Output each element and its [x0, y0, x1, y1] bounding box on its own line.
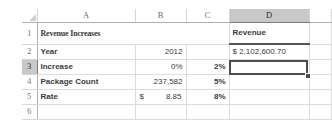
- cell-b5-rate-currency[interactable]: $ 8.85: [135, 89, 186, 104]
- cell-d6[interactable]: [229, 104, 309, 119]
- row-header-3[interactable]: 3: [22, 59, 37, 74]
- table-row: 2 Year 2012 $ 2,102,600.70: [22, 44, 331, 59]
- cell-c2[interactable]: [186, 44, 229, 59]
- cell-d1-revenue-header[interactable]: Revenue: [229, 22, 309, 44]
- row-header-4[interactable]: 4: [22, 74, 37, 89]
- cell-b6[interactable]: [135, 104, 186, 119]
- cell-c3-percent[interactable]: 2%: [186, 59, 229, 74]
- cell-a3-label[interactable]: Increase: [37, 59, 135, 74]
- fill-handle-icon[interactable]: [305, 73, 311, 79]
- column-header-c[interactable]: C: [186, 9, 229, 22]
- cell-a5-label[interactable]: Rate: [37, 89, 135, 104]
- cell-e1[interactable]: [309, 22, 331, 44]
- cell-e5[interactable]: [309, 89, 331, 104]
- cell-a6[interactable]: [37, 104, 135, 119]
- cell-d5[interactable]: [229, 89, 309, 104]
- cell-c5-percent[interactable]: 8%: [186, 89, 229, 104]
- select-all-button[interactable]: [22, 9, 37, 22]
- table-row: 5 Rate $ 8.85 8%: [22, 89, 331, 104]
- table-row: 4 Package Count 237,582 5%: [22, 74, 331, 89]
- spreadsheet-grid-area: A B C D 1 Revenue Increases Revenue 2 Ye…: [0, 0, 332, 125]
- cell-e2[interactable]: [309, 44, 331, 59]
- currency-amount: 8.85: [166, 92, 183, 101]
- cell-e4[interactable]: [309, 74, 331, 89]
- column-header-row: A B C D: [22, 9, 331, 22]
- row-header-6[interactable]: 6: [22, 104, 37, 119]
- cell-e3[interactable]: [309, 59, 331, 74]
- cell-a4-label[interactable]: Package Count: [37, 74, 135, 89]
- cell-d3-active[interactable]: [229, 59, 309, 74]
- cell-b2-year[interactable]: 2012: [135, 44, 186, 59]
- table-row: 3 Increase 0% 2%: [22, 59, 331, 74]
- column-header-e[interactable]: [309, 9, 331, 22]
- row-header-1[interactable]: 1: [22, 22, 37, 44]
- column-header-d[interactable]: D: [229, 9, 309, 22]
- cell-b4-package-count[interactable]: 237,582: [135, 74, 186, 89]
- currency-symbol: $: [139, 92, 144, 101]
- cell-c4-percent[interactable]: 5%: [186, 74, 229, 89]
- row-header-2[interactable]: 2: [22, 44, 37, 59]
- cell-a2-label[interactable]: Year: [37, 44, 135, 59]
- cell-a1-title[interactable]: Revenue Increases: [37, 22, 229, 44]
- cell-d4[interactable]: [229, 74, 309, 89]
- column-header-b[interactable]: B: [135, 9, 186, 22]
- table-row: 6: [22, 104, 331, 119]
- table-row: 1 Revenue Increases Revenue: [22, 22, 331, 44]
- cell-d2-revenue-value[interactable]: $ 2,102,600.70: [229, 44, 309, 59]
- column-header-a[interactable]: A: [37, 9, 135, 22]
- cell-b3-increase[interactable]: 0%: [135, 59, 186, 74]
- cell-e6[interactable]: [309, 104, 331, 119]
- cell-c6[interactable]: [186, 104, 229, 119]
- worksheet-table: A B C D 1 Revenue Increases Revenue 2 Ye…: [22, 9, 332, 120]
- select-all-triangle-icon: [29, 14, 36, 21]
- row-header-5[interactable]: 5: [22, 89, 37, 104]
